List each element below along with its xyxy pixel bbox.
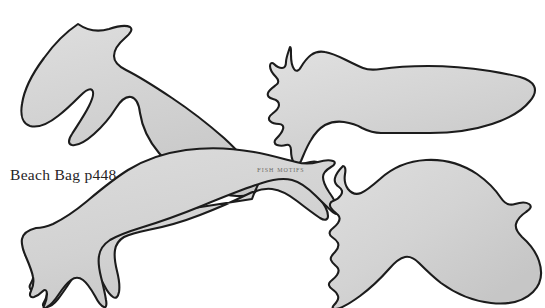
fish-motif-2-outline (268, 47, 535, 165)
fish-motif-2 (268, 47, 535, 165)
fish-motifs-label: Fish Motifs (257, 163, 305, 174)
fish-motif-4 (329, 160, 541, 308)
fish-motifs-illustration (0, 0, 545, 308)
fish-motif-4-outline (329, 160, 541, 308)
beach-bag-caption: Beach Bag p448 (10, 166, 117, 184)
motif-sheet-page: Beach Bag p448 Fish Motifs (0, 0, 545, 308)
